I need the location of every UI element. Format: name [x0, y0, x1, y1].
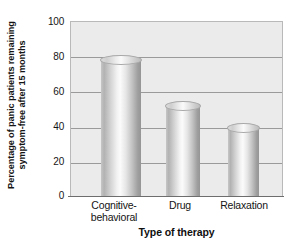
x-tick-drug: Drug: [152, 200, 208, 212]
y-axis-label: Percentage of panic patients remaining s…: [0, 0, 34, 210]
bar-chart-figure: Percentage of panic patients remaining s…: [0, 0, 292, 243]
y-axis-tick-labels: 100 80 60 40 20 0: [36, 0, 64, 243]
y-tick-40: 40: [38, 122, 64, 132]
bar-relaxation: [228, 128, 259, 196]
plot-area: [70, 21, 283, 197]
y-tick-20: 20: [38, 157, 64, 167]
x-tick-line-1: Drug: [152, 200, 208, 212]
y-axis-label-line-2: symptom-free after 15 months: [17, 21, 28, 189]
x-tick-line-2: behavioral: [72, 212, 156, 224]
y-tick-60: 60: [38, 87, 64, 97]
bar-cap-icon: [165, 101, 201, 111]
x-axis-label: Type of therapy: [70, 226, 283, 238]
y-tick-0: 0: [38, 191, 64, 201]
bar-drug: [166, 106, 200, 196]
x-tick-relaxation: Relaxation: [207, 200, 281, 212]
y-tick-100: 100: [38, 17, 64, 27]
x-tick-cognitive-behavioral: Cognitive- behavioral: [72, 200, 156, 223]
y-axis-label-line-1: Percentage of panic patients remaining: [6, 21, 17, 189]
x-tick-line-1: Relaxation: [207, 200, 281, 212]
bar-cap-icon: [100, 55, 142, 65]
bar-cap-icon: [227, 123, 260, 133]
bar-cognitive-behavioral: [101, 60, 141, 196]
x-tick-line-1: Cognitive-: [72, 200, 156, 212]
x-axis-line: [68, 196, 284, 197]
y-tick-80: 80: [38, 52, 64, 62]
